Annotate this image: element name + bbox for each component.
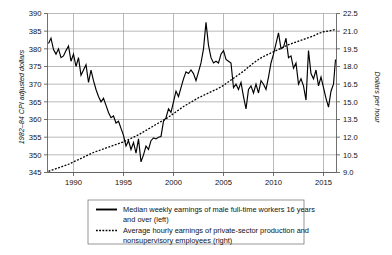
x-axis-tick-label: 1990 bbox=[65, 178, 82, 187]
earnings-line-chart: 345350355360365370375380385390 9.010.512… bbox=[0, 0, 392, 255]
left-axis-tick-label: 345 bbox=[29, 168, 42, 177]
legend-label-average-hourly-earnings-line1: Average hourly earnings of private-secto… bbox=[123, 226, 309, 235]
x-axis-tick-label: 2000 bbox=[165, 178, 182, 187]
left-axis-tick-label: 370 bbox=[29, 80, 42, 89]
right-axis-tick-label: 13.5 bbox=[343, 115, 358, 124]
left-axis-tick-label: 350 bbox=[29, 151, 42, 160]
right-axis-title: Dollars per hour bbox=[373, 71, 382, 123]
left-axis-tick-label: 365 bbox=[29, 98, 42, 107]
legend-label-average-hourly-earnings-line2: nonsupervisory employees (right) bbox=[123, 236, 232, 245]
x-axis-tick-label: 1995 bbox=[115, 178, 132, 187]
right-axis-tick-label: 10.5 bbox=[343, 151, 358, 160]
left-axis-title: 1982–84 CPI adjusted dollars bbox=[17, 49, 26, 144]
left-axis-tick-label: 390 bbox=[29, 9, 42, 18]
chart-legend: Median weekly earnings of male full-time… bbox=[88, 200, 315, 245]
right-axis-tick-label: 12.0 bbox=[343, 133, 358, 142]
left-axis-tick-label: 355 bbox=[29, 133, 42, 142]
x-axis-tick-label: 2015 bbox=[315, 178, 332, 187]
x-axis-tick-label: 2010 bbox=[265, 178, 282, 187]
left-axis-tick-label: 360 bbox=[29, 115, 42, 124]
x-axis-tick-label: 2005 bbox=[215, 178, 232, 187]
right-axis-tick-label: 9.0 bbox=[343, 168, 354, 177]
legend-label-median-weekly-earnings-line1: Median weekly earnings of male full-time… bbox=[123, 205, 315, 214]
right-axis-tick-label: 15.0 bbox=[343, 98, 358, 107]
chart-figure: 345350355360365370375380385390 9.010.512… bbox=[0, 0, 392, 255]
left-axis-tick-label: 375 bbox=[29, 62, 42, 71]
right-axis-tick-label: 16.5 bbox=[343, 80, 358, 89]
right-axis-tick-label: 19.5 bbox=[343, 45, 358, 54]
left-axis-tick-label: 385 bbox=[29, 27, 42, 36]
right-axis-tick-label: 18.0 bbox=[343, 62, 358, 71]
right-axis-tick-label: 21.0 bbox=[343, 27, 358, 36]
left-axis-tick-label: 380 bbox=[29, 45, 42, 54]
legend-label-median-weekly-earnings-line2: and over (left) bbox=[123, 215, 169, 224]
right-axis-tick-label: 22.5 bbox=[343, 9, 358, 18]
